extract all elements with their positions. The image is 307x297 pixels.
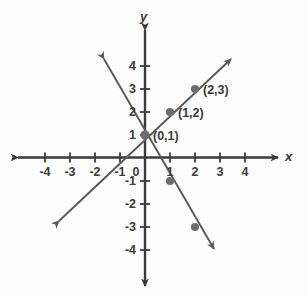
y-tick-label-neg4: -4 (125, 244, 136, 257)
y-tick-label-neg2: -2 (125, 198, 136, 211)
x-tick-label-neg3: -3 (64, 166, 75, 179)
x-axis (18, 153, 278, 163)
x-tick-label-4: 4 (242, 166, 249, 179)
point-marker-1-2 (166, 108, 174, 116)
x-tick-label-neg2: -2 (89, 166, 100, 179)
y-tick-label-1: 1 (129, 129, 136, 142)
x-axis-label: x (285, 150, 292, 163)
point-label-0-1: (0,1) (153, 130, 179, 143)
y-tick-label-2: 2 (129, 106, 136, 119)
graph-canvas (0, 0, 307, 297)
point-marker-0-1 (140, 130, 149, 139)
x-tick-label-2: 2 (192, 166, 199, 179)
point-marker-2-neg3 (191, 223, 199, 231)
point-marker-2-3 (191, 85, 199, 93)
y-tick-label-4: 4 (129, 60, 136, 73)
point-label-1-2: (1,2) (178, 107, 204, 120)
y-tick-label-3: 3 (129, 83, 136, 96)
y-tick-label-neg1: -1 (125, 175, 136, 188)
y-axis-label: y (140, 10, 147, 23)
x-tick-label-3: 3 (217, 166, 224, 179)
y-tick-label-neg3: -3 (125, 221, 136, 234)
x-tick-label-1: 1 (167, 166, 174, 179)
point-label-2-3: (2,3) (203, 84, 229, 97)
coordinate-plane-graph: -4 -3 -2 -1 0 1 2 3 4 4 3 2 1 -1 -2 -3 -… (0, 0, 307, 297)
x-tick-label-neg4: -4 (39, 166, 50, 179)
